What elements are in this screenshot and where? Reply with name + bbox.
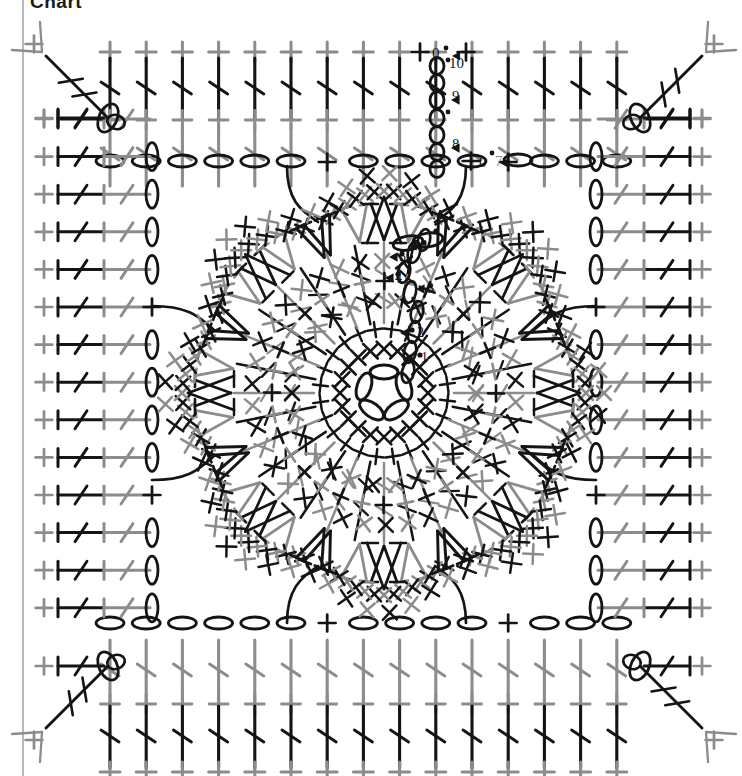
- crochet-stitch-diagram: 1234567891000: [0, 0, 742, 776]
- round-label-10: 10: [449, 55, 464, 71]
- round-label-1: 1: [421, 350, 428, 365]
- chart-canvas: Chart: [0, 0, 742, 776]
- round-label-7: 7: [495, 153, 503, 169]
- round-label-3: 3: [427, 281, 434, 296]
- round-label-8: 8: [452, 136, 460, 152]
- round-label-2: 2: [417, 325, 424, 340]
- round-label-6: 6: [420, 238, 427, 253]
- round-label-5: 5: [399, 249, 406, 264]
- svg-text:0: 0: [479, 154, 487, 170]
- round-label-4: 4: [395, 270, 402, 285]
- svg-text:0: 0: [432, 45, 440, 61]
- round-label-9: 9: [452, 88, 460, 104]
